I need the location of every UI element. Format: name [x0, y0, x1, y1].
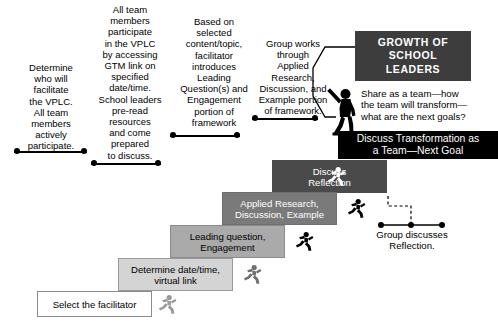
brace-applied-research [252, 115, 318, 122]
brace-bar [170, 135, 240, 137]
group-brace-dot-right [439, 222, 445, 228]
brace-dot-right [312, 115, 318, 121]
step-applied-research[interactable]: Applied Research, Discussion, Example [222, 192, 337, 225]
runner-icon-2 [241, 264, 263, 286]
brace-bar [14, 151, 87, 153]
step-label: Select the facilitator [49, 299, 141, 310]
step-leading-question[interactable]: Leading question, Engagement [170, 225, 285, 258]
runner-icon-1 [156, 294, 178, 316]
brace-dot-left [170, 132, 176, 138]
step-label: Leading question, Engagement [186, 231, 270, 253]
growth-of-school-leaders-banner: GROWTH OF SCHOOL LEADERS [355, 31, 471, 81]
brace-dot-left [252, 115, 258, 121]
brace-participate [91, 160, 161, 167]
standing-person-icon [324, 84, 360, 136]
runner-icon-3 [293, 231, 315, 253]
step-determine-datetime[interactable]: Determine date/time, virtual link [118, 258, 233, 291]
step-label: Applied Research, Discussion, Example [231, 198, 328, 220]
runner-icon-5 [325, 166, 347, 188]
share-as-a-team-text: Share as a team—how the team will transf… [361, 88, 495, 122]
diagram-canvas: Determine who will facilitate the VPLC. … [0, 0, 498, 324]
brace-dot-left [14, 148, 20, 154]
runner-icon-4 [345, 198, 367, 220]
growth-banner-label: GROWTH OF SCHOOL LEADERS [378, 36, 449, 77]
dotted-connector-line [388, 196, 411, 225]
brace-facilitator [14, 148, 87, 155]
group-brace-dot-center [408, 222, 414, 228]
brace-leading-question [170, 132, 240, 139]
brace-bar [252, 118, 318, 120]
brace-dot-right [234, 132, 240, 138]
brace-dot-right [81, 148, 87, 154]
step-select-facilitator[interactable]: Select the facilitator [37, 291, 152, 317]
transform-banner-label: Discuss Transformation as a Team—Next Go… [357, 133, 479, 158]
callout-facilitator: Determine who will facilitate the VPLC. … [14, 62, 88, 152]
brace-dot-right [155, 160, 161, 166]
brace-bar [91, 163, 161, 165]
group-discusses-reflection-label: Group discusses Reflection. [366, 229, 458, 251]
discuss-transformation-banner: Discuss Transformation as a Team—Next Go… [338, 131, 498, 159]
callout-participate: All team members participate in the VPLC… [89, 4, 171, 161]
brace-dot-left [91, 160, 97, 166]
step-label: Determine date/time, virtual link [127, 264, 224, 286]
group-brace-dot-left [378, 222, 384, 228]
